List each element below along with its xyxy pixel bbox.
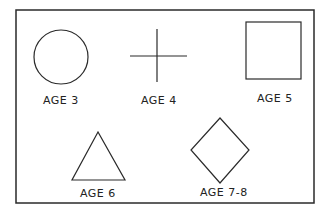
circle-figure: AGE 3 (34, 30, 88, 107)
label-age-6: AGE 6 (80, 187, 116, 200)
circle-shape (34, 30, 88, 84)
square-shape (246, 22, 301, 79)
triangle-shape (72, 132, 125, 180)
label-age-4: AGE 4 (141, 94, 177, 107)
label-age-7-8: AGE 7-8 (200, 186, 248, 199)
cross-figure: AGE 4 (130, 29, 187, 107)
shape-copying-diagram: AGE 3 AGE 4 AGE 5 AGE 6 AGE 7-8 (0, 0, 327, 212)
square-figure: AGE 5 (246, 22, 301, 105)
triangle-figure: AGE 6 (72, 132, 125, 200)
label-age-5: AGE 5 (257, 92, 293, 105)
label-age-3: AGE 3 (43, 94, 79, 107)
diamond-shape (191, 118, 249, 183)
diamond-figure: AGE 7-8 (191, 118, 249, 199)
